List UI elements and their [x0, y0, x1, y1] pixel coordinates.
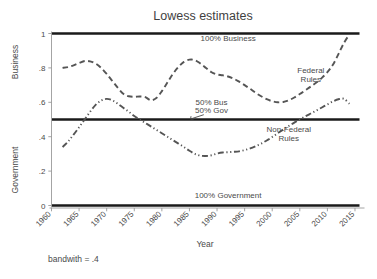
x-tick-label: 2015 — [337, 209, 356, 228]
y-tick-label: .6 — [39, 98, 46, 107]
x-tick-label: 1975 — [117, 209, 136, 228]
y-tick-label: 0 — [41, 202, 46, 211]
series-label: Rules — [279, 134, 299, 143]
reference-line-label: 100% Government — [195, 191, 262, 200]
x-tick-label: 1970 — [89, 209, 108, 228]
x-tick-label: 1995 — [227, 209, 246, 228]
x-tick-label: 1990 — [200, 209, 219, 228]
y-tick-marks — [48, 34, 51, 206]
reference-line-label: 50% Gov — [195, 106, 228, 115]
x-tick-label: 1980 — [144, 209, 163, 228]
series-labels: FederalRulesNon-FederalRules — [267, 66, 325, 143]
reference-lines — [52, 34, 360, 206]
x-tick-label: 1985 — [172, 209, 191, 228]
y-tick-label: 1 — [41, 30, 46, 39]
x-tick-label: 2000 — [255, 209, 274, 228]
y-tick-label: .8 — [39, 64, 46, 73]
x-tick-label: 2010 — [310, 209, 329, 228]
x-tick-label: 2005 — [282, 209, 301, 228]
x-tick-label: 1960 — [34, 209, 53, 228]
reference-line-labels: 100% Business50% Bus50% Gov100% Governme… — [195, 34, 262, 200]
y-axis-label-business: Business — [10, 45, 20, 80]
lowess-estimates-chart: Lowess estimates Business Government Yea… — [0, 0, 377, 279]
reference-line-label: 100% Business — [200, 34, 255, 43]
chart-title: Lowess estimates — [153, 9, 252, 23]
y-tick-label: .2 — [39, 167, 46, 176]
bandwidth-footnote: bandwith = .4 — [48, 254, 99, 264]
series-label: Rules — [301, 75, 321, 84]
x-tick-labels: 1960196519701975198019851990199520002005… — [34, 209, 357, 228]
x-axis-label: Year — [196, 239, 213, 249]
y-tick-label: .4 — [39, 133, 46, 142]
y-tick-labels: 0.2.4.6.81 — [39, 30, 46, 211]
x-tick-label: 1965 — [62, 209, 81, 228]
x-tick-marks — [52, 208, 355, 211]
y-axis-label-government: Government — [10, 146, 20, 193]
